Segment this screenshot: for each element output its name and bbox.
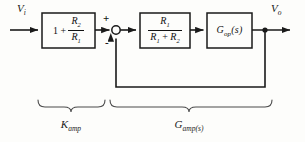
- feedback-gain-block-content: R1 R1 + R2: [140, 13, 190, 48]
- op-amp-gain-block-content: Gop(s): [207, 13, 252, 48]
- feedback-gain-numerator: R1: [158, 16, 171, 29]
- op-amp-gain-label: Gop(s): [217, 24, 243, 38]
- gamp-brace-caption: Gamp(s): [159, 118, 219, 133]
- kamp-brace-caption: Kamp: [41, 118, 101, 133]
- summing-junction-minus-sign: -: [105, 37, 109, 48]
- kamp-fraction: R2 R1: [68, 16, 84, 45]
- input-signal-label: Vi: [17, 3, 26, 17]
- output-signal-label: Vo: [271, 3, 281, 17]
- summing-junction-plus-sign: +: [103, 13, 109, 24]
- kamp-lead-term: 1 +: [53, 25, 66, 36]
- block-diagram-figure: Vi Vo + - 1 + R2 R1 R1 R1 + R2: [0, 0, 305, 142]
- feedback-gain-denominator: R1 + R2: [148, 32, 181, 45]
- gamp-brace: [110, 100, 272, 112]
- summing-junction-circle: [112, 26, 120, 34]
- kamp-brace: [38, 100, 105, 112]
- kamp-numerator: R2: [69, 16, 82, 29]
- feedback-gain-fraction: R1 R1 + R2: [148, 16, 181, 45]
- kamp-denominator: R1: [69, 32, 82, 45]
- kamp-block-content: 1 + R2 R1: [42, 13, 95, 48]
- output-branch-node: [262, 27, 267, 32]
